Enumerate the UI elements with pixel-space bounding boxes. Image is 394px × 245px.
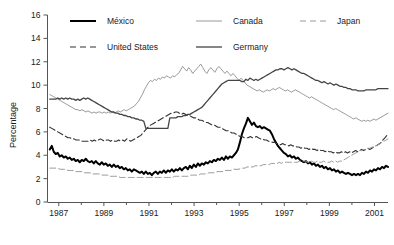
legend-label-germany: Germany — [233, 42, 269, 52]
x-tick-label: 1987 — [49, 208, 68, 218]
x-axis-ticks: 19871989199119931995199719992001 — [49, 202, 384, 218]
y-tick-label: 6 — [36, 127, 41, 137]
y-tick-label: 10 — [31, 80, 41, 90]
legend-label-united-states: United States — [107, 42, 158, 52]
y-tick-label: 14 — [31, 33, 41, 43]
y-tick-label: 4 — [36, 150, 41, 160]
x-tick-label: 1993 — [185, 208, 204, 218]
x-tick-label: 1997 — [275, 208, 294, 218]
y-axis-ticks: 0246810121416 — [31, 10, 47, 207]
series-line-canada — [50, 64, 388, 121]
unemployment-rate-line-chart: Percentage 0246810121416 198719891991199… — [0, 0, 394, 245]
series-line-m-xico — [50, 118, 388, 175]
x-tick-label: 2001 — [365, 208, 384, 218]
chart-canvas: Percentage 0246810121416 198719891991199… — [0, 0, 394, 245]
legend-label-canada: Canada — [233, 16, 263, 26]
y-tick-label: 16 — [31, 10, 41, 20]
y-tick-label: 0 — [36, 197, 41, 207]
series-line-germany — [50, 68, 388, 129]
x-tick-label: 1989 — [94, 208, 113, 218]
series-group — [50, 64, 388, 177]
x-tick-label: 1995 — [230, 208, 249, 218]
y-tick-label: 12 — [31, 57, 41, 67]
x-tick-label: 1991 — [140, 208, 159, 218]
legend-label-m-xico: México — [107, 16, 134, 26]
y-tick-label: 2 — [36, 174, 41, 184]
x-tick-label: 1999 — [320, 208, 339, 218]
legend-label-japan: Japan — [337, 16, 360, 26]
y-tick-label: 8 — [36, 104, 41, 114]
series-line-united-states — [50, 112, 388, 153]
chart-legend: MéxicoCanadaJapanUnited StatesGermany — [70, 16, 360, 52]
y-axis-title: Percentage — [8, 102, 18, 148]
